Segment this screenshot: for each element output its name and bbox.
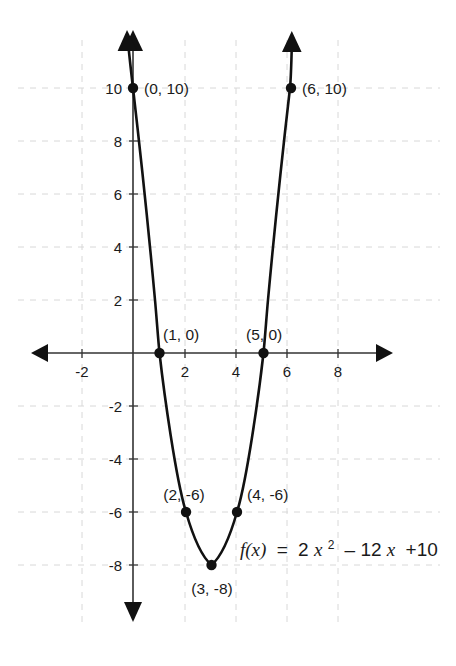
- parabola-curve-group: [118, 30, 302, 565]
- y-tick-label-2: 2: [114, 292, 122, 309]
- y-tick-label-10: 10: [105, 80, 122, 97]
- point-5-0[interactable]: [258, 348, 268, 358]
- x-tick-labels: -2 2 4 6 8: [75, 363, 342, 380]
- graph-canvas: -2 2 4 6 8 10 8 6 4 2 -2 -4 -6 -8 (0, 10…: [0, 0, 456, 666]
- point-3-neg8[interactable]: [206, 560, 216, 570]
- equation-annotation: f(x) = 2 x 2 – 12 x +10: [240, 532, 438, 561]
- parabola-right-branch-arrow-icon: [282, 31, 302, 52]
- point-label-3-neg8: (3, -8): [191, 580, 232, 597]
- y-axis: [123, 30, 143, 622]
- equation-term1-coeff: 2: [298, 539, 309, 560]
- point-label-2-neg6: (2, -6): [163, 486, 204, 503]
- point-1-0[interactable]: [154, 348, 164, 358]
- parabola-plot: -2 2 4 6 8 10 8 6 4 2 -2 -4 -6 -8 (0, 10…: [0, 0, 456, 666]
- y-tick-label-neg4: -4: [109, 451, 122, 468]
- y-tick-label-neg8: -8: [109, 557, 122, 574]
- point-label-5-0: (5, 0): [246, 326, 282, 343]
- equation-lhs: f(x): [240, 539, 266, 561]
- equation-term1-var: x: [313, 539, 323, 560]
- equation-term2-var: x: [386, 539, 396, 560]
- x-tick-label-neg2: -2: [75, 363, 88, 380]
- y-tick-label-6: 6: [114, 186, 122, 203]
- point-2-neg6[interactable]: [181, 507, 191, 517]
- equation-term2: – 12: [345, 539, 382, 560]
- y-tick-label-4: 4: [114, 239, 122, 256]
- point-label-6-10: (6, 10): [302, 80, 347, 97]
- point-label-4-neg6: (4, -6): [247, 486, 288, 503]
- x-tick-label-4: 4: [232, 363, 240, 380]
- x-axis: [31, 344, 393, 362]
- point-label-1-0: (1, 0): [163, 326, 199, 343]
- y-tick-label-neg2: -2: [109, 398, 122, 415]
- y-tick-labels: 10 8 6 4 2 -2 -4 -6 -8: [105, 80, 122, 574]
- x-axis-left-arrow-icon: [31, 344, 48, 362]
- x-tick-label-6: 6: [283, 363, 291, 380]
- x-tick-label-8: 8: [334, 363, 342, 380]
- x-tick-label-2: 2: [181, 363, 189, 380]
- point-labels: (0, 10) (6, 10) (1, 0) (5, 0) (2, -6) (4…: [144, 80, 347, 597]
- y-tick-label-8: 8: [114, 133, 122, 150]
- equation-term1-exponent: 2: [328, 538, 335, 552]
- point-label-0-10: (0, 10): [144, 80, 189, 97]
- point-6-10[interactable]: [286, 83, 296, 93]
- y-axis-down-arrow-icon: [124, 602, 142, 622]
- equation-term3: +10: [406, 539, 438, 560]
- y-tick-label-neg6: -6: [109, 504, 122, 521]
- point-4-neg6[interactable]: [232, 507, 242, 517]
- point-0-10[interactable]: [128, 83, 138, 93]
- svg-text:f(x) = 2: f(x) = 2 x 2 – 12 x +10: [240, 532, 438, 561]
- equation-equals: =: [277, 539, 288, 560]
- x-axis-right-arrow-icon: [376, 344, 393, 362]
